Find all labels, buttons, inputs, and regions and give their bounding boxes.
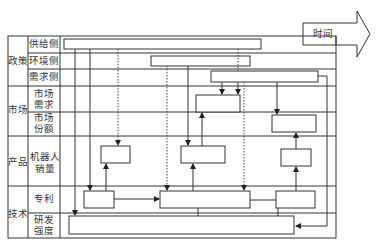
patent-box-2 xyxy=(160,191,250,208)
row-market-demand-line2: 需求 xyxy=(28,99,60,111)
row-patent: 专利 xyxy=(28,193,60,205)
category-product: 产品 xyxy=(6,156,30,168)
patent-box-3 xyxy=(276,191,315,208)
market-demand-box xyxy=(196,95,240,112)
robot-sales-box-3 xyxy=(281,149,311,166)
category-market: 市场 xyxy=(6,104,30,116)
robot-sales-box-2 xyxy=(181,146,225,163)
supply-side-bar xyxy=(64,39,261,49)
market-share-box xyxy=(272,115,316,132)
robot-sales-box-1 xyxy=(101,146,130,163)
row-supply-side: 供给侧 xyxy=(28,38,60,50)
row-robot-sales-line1: 机器人 xyxy=(28,151,62,163)
rd-intensity-box xyxy=(69,216,294,234)
category-technology: 技术 xyxy=(6,208,30,220)
environment-side-bar xyxy=(151,56,250,66)
row-environment-side: 环境侧 xyxy=(28,55,60,67)
row-demand-side: 需求侧 xyxy=(28,71,60,83)
row-market-share-line2: 份额 xyxy=(28,123,60,135)
row-robot-sales-line2: 销量 xyxy=(28,163,62,175)
row-rd-intensity-line2: 强度 xyxy=(28,225,60,237)
time-label: 时间 xyxy=(313,28,333,40)
category-policy: 政策 xyxy=(6,55,30,67)
patent-box-1 xyxy=(84,191,114,208)
demand-side-bar xyxy=(211,71,318,82)
